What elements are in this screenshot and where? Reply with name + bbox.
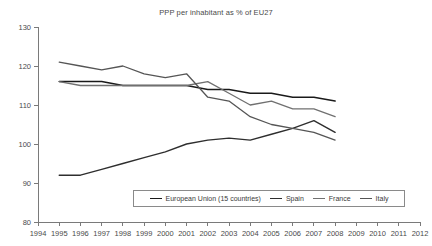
legend-item-label: France (329, 195, 351, 202)
x-axis-tick-label: 2011 (391, 229, 407, 238)
legend-item[interactable]: France (313, 195, 351, 202)
x-axis-tick-label: 2009 (348, 229, 365, 238)
chart-legend: European Union (15 countries)SpainFrance… (133, 190, 405, 207)
x-axis-tick-label: 2012 (412, 229, 429, 238)
x-axis-tick-label: 2008 (327, 229, 344, 238)
legend-line-swatch (313, 198, 325, 199)
y-axis-tick-label: 80 (23, 218, 31, 227)
x-axis: 1994199519961997199819992000200120022003… (30, 222, 429, 238)
x-axis-tick-label: 1995 (51, 229, 68, 238)
chart-plot-area: 8090100110120130 19941995199619971998199… (0, 0, 432, 246)
y-axis: 8090100110120130 (18, 23, 38, 227)
legend-line-swatch (270, 198, 282, 199)
y-axis-tick-label: 120 (18, 62, 31, 71)
legend-line-swatch (360, 198, 372, 199)
x-axis-tick-label: 2003 (221, 229, 238, 238)
x-axis-tick-label: 1996 (72, 229, 89, 238)
x-axis-tick-label: 2005 (263, 229, 280, 238)
legend-item-label: European Union (15 countries) (166, 195, 261, 202)
x-axis-tick-label: 1998 (115, 229, 132, 238)
x-axis-tick-label: 2010 (369, 229, 386, 238)
legend-item[interactable]: Spain (270, 195, 304, 202)
legend-item-label: Italy (376, 195, 389, 202)
x-axis-tick-label: 1997 (93, 229, 110, 238)
x-axis-tick-label: 2000 (157, 229, 174, 238)
chart-container: PPP per inhabitant as % of EU27 80901001… (0, 0, 432, 246)
legend-item[interactable]: Italy (360, 195, 389, 202)
legend-item-label: Spain (286, 195, 304, 202)
y-axis-tick-label: 110 (19, 101, 31, 110)
x-axis-tick-label: 2007 (306, 229, 323, 238)
series-lines (59, 62, 335, 175)
x-axis-tick-label: 2004 (242, 229, 259, 238)
y-axis-tick-label: 100 (18, 140, 31, 149)
x-axis-tick-label: 2002 (199, 229, 216, 238)
legend-line-swatch (150, 198, 162, 199)
legend-item[interactable]: European Union (15 countries) (150, 195, 261, 202)
series-line-european-union-15-countries (59, 82, 335, 102)
x-axis-tick-label: 1994 (30, 229, 47, 238)
x-axis-tick-label: 2006 (284, 229, 301, 238)
y-axis-tick-label: 90 (23, 179, 31, 188)
y-axis-tick-label: 130 (18, 23, 31, 32)
x-axis-tick-label: 2001 (178, 229, 195, 238)
series-line-italy (59, 62, 335, 140)
x-axis-tick-label: 1999 (136, 229, 153, 238)
